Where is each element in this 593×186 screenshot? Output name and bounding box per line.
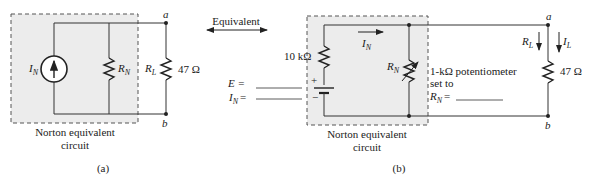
node-b-label-b: b (545, 119, 551, 131)
figure-b: 10 kΩ + − E = IN= IN RN 1-kΩ potentiomet… (227, 10, 582, 175)
equivalent-arrow: Equivalent (207, 15, 267, 30)
current-source-icon (41, 56, 67, 82)
rl-value-a: 47 Ω (178, 63, 200, 75)
box-caption-b-2: circuit (353, 141, 381, 153)
battery-plus: + (311, 74, 317, 86)
box-caption-a-2: circuit (61, 139, 89, 151)
box-caption-b-1: Norton equivalent (327, 128, 407, 140)
caption-a: (a) (97, 162, 110, 175)
pot-note-line2: set to (430, 77, 454, 89)
il-label: IL (562, 35, 572, 50)
pot-note-line1: 1-kΩ potentiometer (430, 65, 517, 77)
equivalent-label: Equivalent (212, 15, 260, 27)
rl-arrow-label: RL (521, 35, 534, 50)
battery-minus: − (312, 91, 318, 103)
pot-note-line3: RN= (429, 90, 450, 105)
node-a-label-a: a (163, 8, 169, 20)
resistor-rl-a-icon (161, 58, 171, 80)
figure-a: IN RN RL 47 Ω a b Norton equivalent circ… (11, 8, 200, 175)
node-b-label-a: b (162, 117, 168, 129)
in-label: IN= (228, 91, 246, 106)
caption-b: (b) (393, 162, 406, 175)
circuit-diagram: IN RN RL 47 Ω a b Norton equivalent circ… (0, 0, 593, 186)
e-label: E = (227, 77, 245, 89)
resistor-10k-label: 10 kΩ (284, 50, 311, 62)
node-a-label-b: a (546, 10, 552, 22)
rl-value-b: 47 Ω (560, 65, 582, 77)
resistor-rl-b-icon (543, 61, 553, 83)
rl-label-a: RL (144, 62, 157, 77)
box-caption-a-1: Norton equivalent (35, 126, 115, 138)
